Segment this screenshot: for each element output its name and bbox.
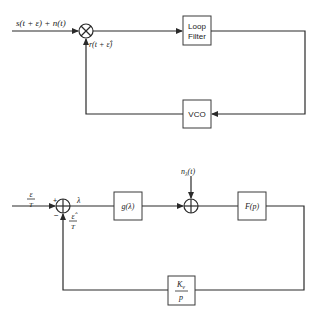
plus-sign: + — [53, 197, 57, 204]
loop-filter-label-2: Filter — [188, 32, 206, 41]
error-lambda-label: λ — [76, 196, 81, 205]
feedback-T-label: T — [71, 223, 76, 231]
minus-sign: − — [54, 211, 59, 220]
filter-to-vco-line — [211, 31, 305, 114]
input-eps-label: ε — [29, 190, 33, 199]
noise-arg: (t) — [188, 167, 196, 176]
nonlinearity-label: g(λ) — [122, 202, 135, 211]
feedback-eps-hat-label: ε̂ — [71, 212, 77, 221]
vco-p-label: p — [178, 293, 183, 302]
block-diagrams: s(t + ε) + n(t) Loop Filter VCO r(t + ε̂… — [0, 0, 320, 316]
phase-feedback-line — [63, 214, 168, 290]
filter-label: F(p) — [244, 202, 260, 211]
vco-label: VCO — [188, 110, 205, 119]
vco-sub: v — [182, 284, 185, 290]
loop-filter-label-1: Loop — [188, 22, 206, 31]
feedback-signal-label: r(t + ε̂) — [89, 40, 113, 49]
noise-label: nλ(t) — [181, 167, 195, 177]
multiplier-node — [79, 24, 93, 38]
top-loop-diagram: s(t + ε) + n(t) Loop Filter VCO r(t + ε̂… — [12, 16, 305, 128]
input-T-label: T — [29, 201, 34, 209]
bottom-linear-model-diagram: ε T + − λ ε̂ T g(λ) nλ(t) F(p) Kv — [12, 167, 304, 305]
summing-junction-2 — [184, 199, 198, 213]
input-signal-label: s(t + ε) + n(t) — [16, 18, 66, 28]
vco-feedback-line — [86, 39, 183, 114]
